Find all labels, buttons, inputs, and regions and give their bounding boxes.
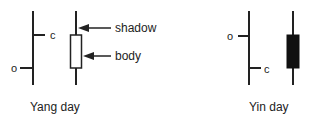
shadow-label: shadow [115,21,157,35]
yin-close-label: c [264,63,270,75]
yin-open-label: o [227,30,233,42]
yang-close-label: c [50,29,56,41]
yin-day-caption: Yin day [249,100,289,114]
candlestick-diagram: c o shadow body o c Yang day Yin day [0,0,313,121]
yin-candlestick [287,11,299,85]
yang-ohlc-bar [20,11,45,85]
yang-day-caption: Yang day [30,100,80,114]
yang-candlestick [71,11,82,85]
yin-ohlc-bar [238,11,261,85]
body-label: body [115,49,141,63]
shadow-arrow [78,24,111,32]
body-arrow [83,52,111,60]
yang-open-label: o [11,62,17,74]
